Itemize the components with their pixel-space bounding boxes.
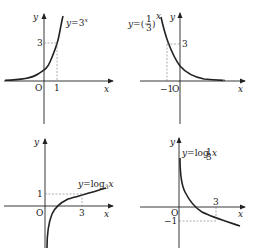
tick-y-neg1: −1: [164, 216, 177, 226]
tick-x-3: 3: [79, 208, 85, 218]
curve-log3: [47, 188, 106, 248]
svg-text:): ): [152, 19, 156, 29]
svg-text:y=log: y=log: [181, 148, 209, 158]
svg-text:x: x: [156, 11, 161, 21]
exponential-log-graphs-figure: y x O 1 3 y=3x y x O −1 3 y=( 1 3 ) x y: [0, 0, 261, 248]
y-axis-label: y: [169, 12, 176, 22]
curve-log-one-third: [180, 158, 240, 226]
svg-text:y=(: y=(: [127, 19, 144, 29]
function-label: y=log 1 3 x: [181, 147, 217, 162]
tick-y-3: 3: [182, 39, 188, 49]
tick-x-1: 1: [54, 83, 60, 93]
x-axis-label: x: [104, 84, 109, 94]
x-axis-label: x: [238, 84, 243, 94]
y-axis-label: y: [169, 137, 176, 147]
tick-x-3: 3: [213, 197, 219, 207]
origin-label: O: [36, 208, 43, 218]
curve-3x: [5, 16, 63, 80]
origin-label: O: [35, 83, 42, 93]
graph-exp-one-third-x: y x O −1 3 y=( 1 3 ) x: [127, 11, 245, 124]
svg-text:x: x: [212, 148, 217, 158]
graph-log-one-third: y x O 3 −1 y=log 1 3 x: [140, 137, 245, 248]
y-axis-label: y: [33, 137, 40, 147]
function-label: y=3x: [65, 16, 88, 28]
curve-one-third-x: [161, 17, 224, 80]
tick-y-1: 1: [37, 189, 43, 199]
tick-y-3: 3: [37, 38, 43, 48]
function-label: y=( 1 3 ) x: [127, 11, 161, 33]
x-axis-label: x: [104, 209, 109, 219]
graph-log3: y x O 3 1 y=log3x: [4, 137, 114, 248]
graph-exp-3x: y x O 1 3 y=3x: [4, 12, 113, 124]
function-label: y=log3x: [77, 179, 114, 190]
x-axis-label: x: [238, 209, 243, 219]
y-axis-label: y: [32, 12, 39, 22]
tick-x-neg1: −1: [160, 84, 173, 94]
